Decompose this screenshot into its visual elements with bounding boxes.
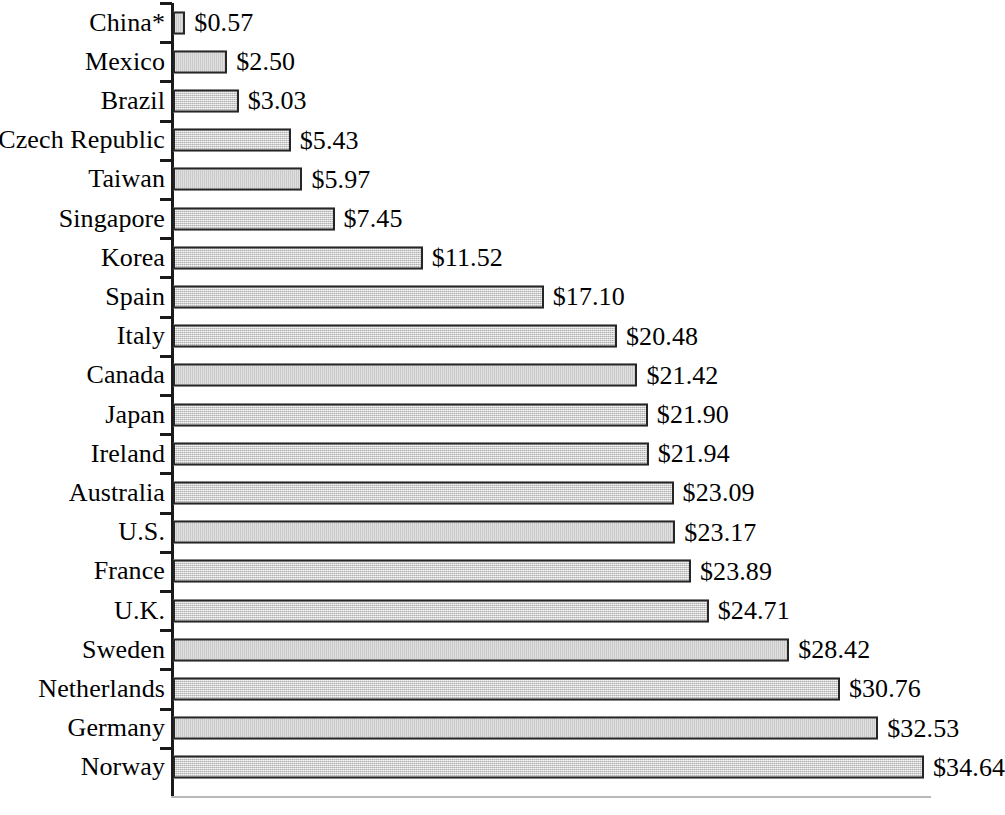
category-label: Taiwan	[88, 166, 165, 192]
bar	[173, 442, 649, 465]
bar-value-label: $34.64	[933, 754, 1005, 780]
bar-and-value: $24.71	[173, 599, 790, 622]
bar	[173, 325, 617, 348]
bar-row: Mexico$2.50	[0, 42, 1005, 81]
bar	[173, 756, 924, 779]
bar-and-value: $2.50	[173, 50, 295, 73]
bar	[173, 89, 239, 112]
bar-row: Czech Republic$5.43	[0, 121, 1005, 160]
bar-chart: China*$0.57Mexico$2.50Brazil$3.03Czech R…	[0, 0, 1005, 815]
y-axis-tick	[160, 747, 172, 750]
bar-and-value: $20.48	[173, 325, 698, 348]
bar-value-label: $5.43	[300, 127, 359, 153]
bar-and-value: $21.90	[173, 403, 729, 426]
bar-row: Korea$11.52	[0, 238, 1005, 277]
y-axis-tick	[160, 276, 172, 279]
y-axis-tick	[160, 159, 172, 162]
y-axis-tick	[160, 80, 172, 83]
category-label: U.S.	[118, 519, 165, 545]
bar-value-label: $2.50	[236, 49, 295, 75]
bar	[173, 403, 648, 426]
bar-and-value: $21.94	[173, 442, 730, 465]
category-label: Mexico	[85, 49, 165, 75]
bar	[173, 246, 423, 269]
y-axis-tick	[160, 120, 172, 123]
bar-value-label: $21.42	[646, 362, 718, 388]
bar-value-label: $20.48	[626, 323, 698, 349]
category-label: Sweden	[82, 637, 165, 663]
bar-row: Singapore$7.45	[0, 199, 1005, 238]
bar-row: Spain$17.10	[0, 277, 1005, 316]
y-axis-tick	[160, 708, 172, 711]
bar	[173, 717, 878, 740]
bar-and-value: $30.76	[173, 677, 921, 700]
bar-row: Ireland$21.94	[0, 434, 1005, 473]
bar-and-value: $7.45	[173, 207, 403, 230]
bar-row: Taiwan$5.97	[0, 160, 1005, 199]
y-axis-tick	[160, 590, 172, 593]
category-label: Canada	[86, 362, 165, 388]
category-label: Spain	[105, 284, 165, 310]
bar-and-value: $5.43	[173, 129, 359, 152]
category-label: Singapore	[59, 206, 165, 232]
bar	[173, 481, 674, 504]
bar-row: Italy$20.48	[0, 317, 1005, 356]
bar-and-value: $5.97	[173, 168, 370, 191]
bar-and-value: $28.42	[173, 638, 870, 661]
bar-value-label: $30.76	[849, 676, 921, 702]
category-label: Australia	[69, 480, 165, 506]
plot-area: China*$0.57Mexico$2.50Brazil$3.03Czech R…	[0, 0, 1005, 815]
bar	[173, 677, 840, 700]
bar-row: Netherlands$30.76	[0, 669, 1005, 708]
bar	[173, 129, 291, 152]
bar	[173, 560, 691, 583]
y-axis-tick	[160, 316, 172, 319]
bar-and-value: $0.57	[173, 11, 253, 34]
bar-value-label: $17.10	[553, 284, 625, 310]
category-label: Czech Republic	[0, 127, 165, 153]
bar-and-value: $11.52	[173, 246, 503, 269]
y-axis-tick	[160, 394, 172, 397]
bar-value-label: $5.97	[311, 166, 370, 192]
bar	[173, 50, 227, 73]
bar-value-label: $23.89	[700, 558, 772, 584]
bar-row: Norway$34.64	[0, 748, 1005, 787]
bar-row: China*$0.57	[0, 3, 1005, 42]
bar-value-label: $21.90	[657, 402, 729, 428]
y-axis-tick	[160, 355, 172, 358]
bar-row: Australia$23.09	[0, 473, 1005, 512]
category-label: Netherlands	[38, 676, 165, 702]
bar-value-label: $7.45	[344, 206, 403, 232]
category-label: China*	[89, 10, 165, 36]
bar-value-label: $24.71	[718, 598, 790, 624]
bar-row: Sweden$28.42	[0, 630, 1005, 669]
y-axis-tick	[160, 629, 172, 632]
category-label: Ireland	[91, 441, 165, 467]
y-axis-tick	[160, 472, 172, 475]
bar-row: U.S.$23.17	[0, 513, 1005, 552]
category-label: Brazil	[101, 88, 165, 114]
bar-value-label: $28.42	[798, 637, 870, 663]
bar-value-label: $23.17	[684, 519, 756, 545]
bar-value-label: $11.52	[432, 245, 503, 271]
bar-row: Japan$21.90	[0, 395, 1005, 434]
bar-value-label: $21.94	[658, 441, 730, 467]
bar-and-value: $3.03	[173, 89, 307, 112]
category-label: Italy	[117, 323, 165, 349]
bar-and-value: $23.17	[173, 521, 756, 544]
bar-row: Germany$32.53	[0, 709, 1005, 748]
category-label: Japan	[105, 402, 165, 428]
category-label: Korea	[101, 245, 165, 271]
category-label: Germany	[68, 715, 165, 741]
category-label: France	[94, 558, 165, 584]
bar-and-value: $23.09	[173, 481, 755, 504]
bar-and-value: $17.10	[173, 285, 625, 308]
y-axis-tick	[160, 512, 172, 515]
bar-and-value: $21.42	[173, 364, 718, 387]
category-label: Norway	[81, 754, 165, 780]
bar-row: Canada$21.42	[0, 356, 1005, 395]
bar-row: Brazil$3.03	[0, 81, 1005, 120]
bar	[173, 599, 709, 622]
bar-value-label: $3.03	[248, 88, 307, 114]
bar	[173, 364, 637, 387]
